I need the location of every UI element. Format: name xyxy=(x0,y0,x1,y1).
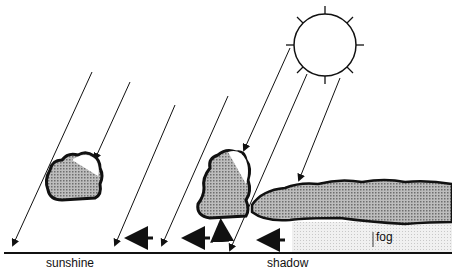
label-fog: fog xyxy=(376,230,393,244)
label-shadow: shadow xyxy=(267,256,308,269)
wind-arrows xyxy=(130,238,285,240)
stratus-cloud-layer xyxy=(252,180,452,224)
diagram-canvas xyxy=(0,0,452,269)
label-sunshine: sunshine xyxy=(46,256,94,269)
updraft-arrow xyxy=(221,224,222,240)
sun-icon xyxy=(286,6,364,84)
fog-bank xyxy=(292,222,452,252)
